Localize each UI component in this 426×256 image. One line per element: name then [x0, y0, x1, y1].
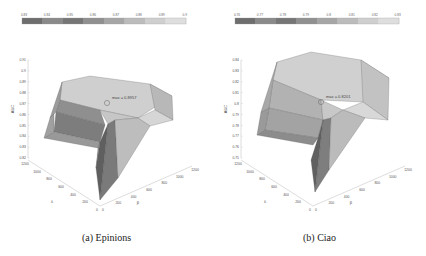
colorbar-tick: 0.86	[90, 13, 96, 17]
z-tick: 0.85	[19, 124, 26, 128]
x-tick: 200	[295, 200, 301, 204]
colorbar-tick: 0.77	[257, 13, 263, 17]
colorbar-tick: 0.76	[234, 13, 240, 17]
caption-ciao: (b) Ciao	[213, 232, 426, 243]
x-tick: 1200	[234, 162, 242, 166]
panel-epinions: 0.830.840.850.860.870.880.890.90.910.90.…	[0, 0, 213, 256]
surface-plot-ciao: 0.760.770.780.790.80.810.820.830.840.830…	[213, 0, 426, 230]
x-tick: 800	[259, 177, 265, 181]
x-tick: 1000	[246, 170, 254, 174]
colorbar-tick: 0.8	[327, 13, 332, 17]
y-tick: 1200	[404, 168, 412, 172]
surface	[257, 52, 389, 192]
z-tick: 0.79	[232, 113, 239, 117]
colorbar-segment	[338, 18, 359, 24]
y-axis-label: β	[350, 200, 353, 205]
colorbar-tick: 0.84	[44, 13, 50, 17]
colorbar-segment	[84, 18, 105, 24]
y-tick: 400	[131, 195, 137, 199]
colorbar-segment	[235, 18, 256, 24]
y-tick: 1200	[191, 168, 199, 172]
colorbar-segment	[256, 18, 277, 24]
colorbar-segment	[276, 18, 297, 24]
x-tick: 400	[283, 193, 289, 197]
z-tick: 0.84	[232, 58, 239, 62]
z-axis-label: AUC	[10, 105, 15, 114]
z-axis-label: AUC	[223, 105, 228, 114]
z-tick: 0.75	[232, 156, 239, 160]
z-tick: 0.88	[19, 91, 26, 95]
colorbar-segment	[104, 18, 125, 24]
colorbar-segment	[166, 18, 187, 24]
max-annotation: max = 0.8201	[326, 94, 351, 99]
x-tick: 1200	[21, 162, 29, 166]
colorbar-segment	[317, 18, 338, 24]
colorbar-segment	[43, 18, 64, 24]
colorbar-tick: 0.88	[136, 13, 142, 17]
x-tick: 800	[46, 177, 52, 181]
z-tick: 0.9	[21, 69, 26, 73]
z-tick: 0.86	[19, 113, 26, 117]
y-tick: 800	[374, 181, 380, 185]
x-tick: 400	[70, 193, 76, 197]
x-tick: 0	[96, 208, 98, 212]
x-tick: 600	[58, 185, 64, 189]
x-axis-label: λ	[51, 199, 53, 204]
y-tick: 600	[359, 188, 365, 192]
colorbar-tick: 0.9	[183, 13, 188, 17]
x-tick: 0	[309, 208, 311, 212]
colorbar-tick: 0.85	[67, 13, 73, 17]
colorbar-tick: 0.83	[395, 13, 401, 17]
y-tick: 600	[146, 188, 152, 192]
panel-ciao: 0.760.770.780.790.80.810.820.830.840.830…	[213, 0, 426, 256]
colorbar-segment	[297, 18, 318, 24]
z-tick: 0.82	[232, 80, 239, 84]
caption-epinions: (a) Epinions	[0, 232, 213, 243]
y-tick: 200	[328, 201, 334, 205]
colorbar-tick: 0.78	[280, 13, 286, 17]
colorbar-segment	[22, 18, 43, 24]
z-tick: 0.84	[19, 134, 26, 138]
surface	[44, 76, 173, 200]
z-tick: 0.87	[19, 102, 26, 106]
z-tick: 0.78	[232, 124, 239, 128]
colorbar-segment	[379, 18, 400, 24]
y-tick: 0	[315, 208, 317, 212]
z-tick: 0.81	[232, 91, 239, 95]
z-tick: 0.77	[232, 134, 239, 138]
z-tick: 0.91	[19, 58, 26, 62]
colorbar-segment	[125, 18, 146, 24]
z-tick: 0.8	[234, 102, 239, 106]
y-tick: 400	[344, 195, 350, 199]
colorbar-segment	[145, 18, 166, 24]
max-annotation: max = 0.8957	[112, 95, 137, 100]
colorbar-tick: 0.87	[113, 13, 119, 17]
colorbar-tick: 0.82	[372, 13, 378, 17]
colorbar-tick: 0.79	[303, 13, 309, 17]
colorbar-tick: 0.89	[159, 13, 165, 17]
z-tick: 0.82	[19, 156, 26, 160]
x-axis-label: λ	[264, 199, 266, 204]
x-tick: 1000	[33, 170, 41, 174]
z-tick: 0.83	[19, 145, 26, 149]
x-tick: 200	[82, 200, 88, 204]
colorbar-segment	[358, 18, 379, 24]
y-tick: 800	[161, 181, 167, 185]
z-tick: 0.76	[232, 145, 239, 149]
y-tick: 1000	[389, 175, 397, 179]
y-tick: 200	[115, 201, 121, 205]
z-tick: 0.83	[232, 69, 239, 73]
colorbar-tick: 0.83	[21, 13, 27, 17]
surface-plot-epinions: 0.830.840.850.860.870.880.890.90.910.90.…	[0, 0, 213, 230]
y-axis-label: β	[137, 200, 140, 205]
z-tick: 0.89	[19, 80, 26, 84]
colorbar-tick: 0.81	[349, 13, 355, 17]
colorbar-segment	[63, 18, 84, 24]
y-tick: 0	[102, 208, 104, 212]
y-tick: 1000	[176, 175, 184, 179]
x-tick: 600	[271, 185, 277, 189]
